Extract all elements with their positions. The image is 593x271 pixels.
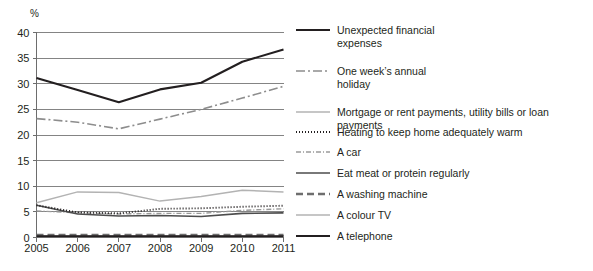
legend-label: Heating to keep home adequately warm — [337, 126, 523, 139]
legend-swatch-icon — [296, 106, 330, 118]
legend-label: A telephone — [337, 230, 392, 243]
x-axis-tick-label: 2008 — [148, 242, 172, 254]
plot-svg — [0, 0, 300, 271]
legend-label: Eat meat or protein regularly — [337, 167, 469, 180]
legend-item[interactable]: Unexpected financial expenses — [296, 24, 434, 50]
legend-item[interactable]: A car — [296, 146, 361, 159]
legend-item[interactable]: A colour TV — [296, 209, 391, 222]
legend-swatch-icon — [296, 126, 330, 138]
y-axis-tick-label: 35 — [0, 52, 30, 64]
y-axis-tick-label: 25 — [0, 103, 30, 115]
legend-swatch-icon — [296, 146, 330, 158]
x-axis-tick-label: 2010 — [230, 242, 254, 254]
legend-item[interactable]: A telephone — [296, 230, 392, 243]
x-axis-tick-label: 2006 — [65, 242, 89, 254]
series-line — [37, 49, 284, 102]
legend-item[interactable]: Eat meat or protein regularly — [296, 167, 469, 180]
legend-label: One week’s annual holiday — [337, 65, 426, 91]
legend-item[interactable]: A washing machine — [296, 188, 427, 201]
legend-label: A colour TV — [337, 209, 391, 222]
chart-legend: Unexpected financial expensesOne week’s … — [296, 0, 593, 271]
series-line — [37, 86, 284, 129]
legend-swatch-icon — [296, 24, 330, 36]
x-axis-tick-label: 2009 — [189, 242, 213, 254]
legend-swatch-icon — [296, 230, 330, 242]
y-axis-tick-label: 20 — [0, 129, 30, 141]
legend-swatch-icon — [296, 65, 330, 77]
x-axis-tick-label: 2005 — [24, 242, 48, 254]
legend-label: A washing machine — [337, 188, 427, 201]
legend-item[interactable]: Heating to keep home adequately warm — [296, 126, 523, 139]
legend-swatch-icon — [296, 209, 330, 221]
y-axis-tick-label: 5 — [0, 206, 30, 218]
y-axis-tick-label: 15 — [0, 155, 30, 167]
y-axis-tick-label: 30 — [0, 78, 30, 90]
legend-swatch-icon — [296, 167, 330, 179]
legend-label: Unexpected financial expenses — [337, 24, 434, 50]
chart-container: % 0510152025303540 200520062007200820092… — [0, 0, 593, 271]
x-axis-tick-label: 2011 — [272, 242, 296, 254]
legend-label: A car — [337, 146, 361, 159]
y-axis-tick-label: 10 — [0, 180, 30, 192]
y-axis-tick-label: 40 — [0, 27, 30, 39]
x-axis-tick-label: 2007 — [107, 242, 131, 254]
series-line — [37, 190, 284, 202]
plot-area: 0510152025303540 20052006200720082009201… — [0, 0, 300, 271]
legend-item[interactable]: One week’s annual holiday — [296, 65, 426, 91]
legend-swatch-icon — [296, 188, 330, 200]
